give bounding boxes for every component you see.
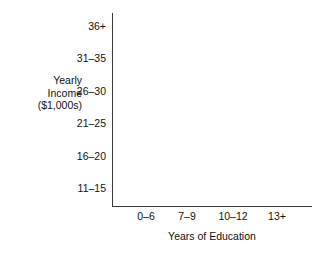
x-axis-line [112, 206, 312, 207]
x-tick-label: 10–12 [218, 211, 247, 222]
x-tick-label: 7–9 [178, 211, 196, 222]
x-tick-label: 0–6 [137, 211, 155, 222]
x-tick-label: 13+ [268, 211, 286, 222]
plot-area [113, 13, 312, 206]
y-tick-label: 26–30 [0, 86, 106, 97]
y-tick-label: 31–35 [0, 53, 106, 64]
y-tick-label: 36+ [0, 21, 106, 32]
y-axis-tick-labels: 36+ 31–35 26–30 21–25 16–20 11–15 [0, 0, 106, 260]
x-axis-title: Years of Education [112, 231, 312, 242]
y-tick-label: 21–25 [0, 118, 106, 129]
y-tick-label: 16–20 [0, 151, 106, 162]
y-tick-label: 11–15 [0, 183, 106, 194]
chart-figure: Yearly Income ($1,000s) 36+ 31–35 26–30 … [0, 0, 328, 260]
